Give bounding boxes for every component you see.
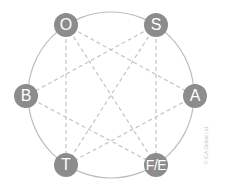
node-o: O: [54, 13, 78, 37]
connection-b-fe: [26, 96, 156, 165]
connection-a-t: [66, 96, 195, 165]
node-a: A: [183, 84, 207, 108]
connection-s-b: [26, 25, 156, 96]
node-s: S: [144, 13, 168, 37]
connection-o-a: [66, 25, 195, 96]
copyright-notice: © ICA Global Ltd.: [203, 126, 209, 165]
relationship-diagram: O S B A T F/E © ICA Global Ltd.: [0, 0, 226, 187]
node-fe: F/E: [144, 153, 168, 177]
node-b: B: [14, 84, 38, 108]
node-t: T: [54, 153, 78, 177]
outer-ring: [28, 12, 194, 178]
